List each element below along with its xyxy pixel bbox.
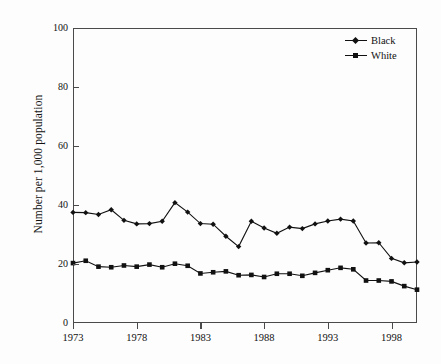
x-tick-label: 1978 xyxy=(126,332,147,344)
y-tick-label: 40 xyxy=(58,200,68,210)
x-tick-label: 1998 xyxy=(381,332,402,344)
x-tick-mark xyxy=(200,323,201,329)
square-marker-icon xyxy=(345,51,367,61)
y-tick-label: 80 xyxy=(58,82,68,92)
y-tick-label: 20 xyxy=(58,259,68,269)
legend-label-black: Black xyxy=(371,33,396,48)
chart-legend: Black White xyxy=(345,33,397,63)
y-axis-title: Number per 1,000 population xyxy=(32,64,44,264)
diamond-marker-icon xyxy=(345,36,367,46)
x-tick-mark xyxy=(392,323,393,329)
legend-label-white: White xyxy=(371,48,397,63)
x-tick-label: 1988 xyxy=(254,332,275,344)
chart-container: 020406080100 Number per 1,000 population… xyxy=(0,0,441,364)
y-axis-tick-labels: 020406080100 xyxy=(40,0,68,364)
x-tick-label: 1993 xyxy=(317,332,338,344)
plot-area-frame xyxy=(73,28,417,323)
legend-item-white[interactable]: White xyxy=(345,48,397,63)
legend-item-black[interactable]: Black xyxy=(345,33,397,48)
y-tick-mark xyxy=(73,205,79,206)
y-tick-mark xyxy=(73,146,79,147)
x-tick-mark xyxy=(137,323,138,329)
y-tick-mark xyxy=(73,87,79,88)
y-tick-mark xyxy=(73,264,79,265)
x-tick-mark xyxy=(328,323,329,329)
x-tick-mark xyxy=(264,323,265,329)
y-tick-label: 60 xyxy=(58,141,68,151)
y-tick-label: 100 xyxy=(53,23,68,33)
x-tick-label: 1973 xyxy=(63,332,84,344)
y-tick-label: 0 xyxy=(63,318,68,328)
x-tick-label: 1983 xyxy=(190,332,211,344)
x-tick-mark xyxy=(73,323,74,329)
